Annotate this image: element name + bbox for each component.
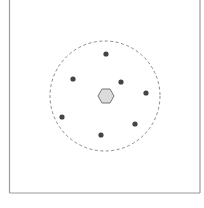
point-marker-3 <box>118 79 123 84</box>
point-marker-1 <box>103 51 108 56</box>
point-marker-7 <box>98 132 103 137</box>
point-marker-2 <box>70 76 75 81</box>
point-marker-5 <box>59 114 64 119</box>
center-hexagon-icon <box>98 89 114 103</box>
point-marker-4 <box>143 90 148 95</box>
point-marker-6 <box>132 121 137 126</box>
diagram-canvas <box>0 0 204 208</box>
